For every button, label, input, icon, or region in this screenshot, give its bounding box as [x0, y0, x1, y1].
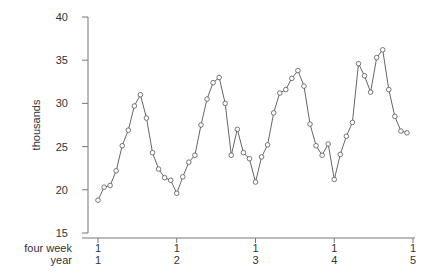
data-point-marker — [356, 61, 361, 66]
data-point-marker — [362, 73, 367, 78]
y-tick-label: 35 — [56, 54, 68, 66]
data-point-marker — [138, 92, 143, 97]
data-point-marker — [350, 120, 355, 125]
data-point-marker — [211, 80, 216, 85]
data-point-marker — [96, 198, 101, 203]
data-point-marker — [217, 75, 222, 80]
data-point-marker — [393, 114, 398, 119]
data-point-marker — [253, 180, 258, 185]
data-point-marker — [399, 129, 404, 134]
data-point-marker — [271, 111, 276, 116]
x-tick-label: 1 — [410, 242, 416, 254]
data-point-marker — [368, 90, 373, 95]
x-tick-label: 1 — [95, 254, 101, 266]
y-tick-label: 20 — [56, 184, 68, 196]
data-point-marker — [265, 143, 270, 148]
data-point-marker — [405, 130, 410, 135]
x-row-label-year: year — [51, 254, 73, 266]
data-point-marker — [290, 76, 295, 81]
data-point-marker — [132, 104, 137, 109]
data-point-marker — [193, 153, 198, 158]
data-point-marker — [338, 152, 343, 157]
data-point-marker — [120, 143, 125, 148]
y-tick-label: 40 — [56, 11, 68, 23]
data-point-marker — [235, 127, 240, 132]
x-axis: 1112131415 — [82, 238, 416, 266]
y-axis: 152025303540 — [56, 11, 88, 239]
data-point-marker — [162, 175, 167, 180]
data-point-marker — [229, 153, 234, 158]
data-point-marker — [108, 183, 113, 188]
data-point-marker — [247, 156, 252, 161]
data-point-marker — [314, 143, 319, 148]
data-point-marker — [296, 68, 301, 73]
x-tick-label: 2 — [174, 254, 180, 266]
data-point-marker — [205, 97, 210, 102]
data-point-marker — [181, 175, 186, 180]
y-axis-title: thousands — [30, 99, 42, 150]
data-point-marker — [386, 87, 391, 92]
data-point-marker — [320, 153, 325, 158]
data-point-marker — [174, 191, 179, 196]
data-point-marker — [326, 142, 331, 147]
x-tick-label: 5 — [410, 254, 416, 266]
y-tick-label: 25 — [56, 141, 68, 153]
data-point-marker — [187, 160, 192, 165]
x-tick-label: 1 — [174, 242, 180, 254]
data-point-marker — [199, 123, 204, 128]
line-chart: 152025303540 1112131415 thousands four w… — [0, 0, 434, 280]
x-row-label-four-week: four week — [24, 242, 72, 254]
data-series — [96, 48, 410, 203]
data-point-marker — [102, 185, 107, 190]
data-point-marker — [168, 178, 173, 183]
x-tick-label: 1 — [95, 242, 101, 254]
series-line — [98, 50, 407, 200]
data-point-marker — [344, 134, 349, 139]
data-point-marker — [223, 101, 228, 106]
data-point-marker — [332, 177, 337, 182]
data-point-marker — [302, 84, 307, 89]
data-point-marker — [156, 167, 161, 172]
data-point-marker — [308, 122, 313, 127]
y-tick-label: 15 — [56, 227, 68, 239]
data-point-marker — [150, 150, 155, 155]
data-point-marker — [374, 55, 379, 60]
data-point-marker — [241, 150, 246, 155]
data-point-marker — [283, 87, 288, 92]
data-point-marker — [380, 48, 385, 53]
data-point-marker — [259, 155, 264, 160]
data-point-marker — [277, 91, 282, 96]
x-tick-label: 1 — [331, 242, 337, 254]
y-tick-label: 30 — [56, 97, 68, 109]
x-tick-label: 3 — [252, 254, 258, 266]
data-point-marker — [126, 128, 131, 133]
data-point-marker — [114, 168, 119, 173]
data-point-marker — [144, 116, 149, 121]
x-tick-label: 4 — [331, 254, 337, 266]
x-tick-label: 1 — [252, 242, 258, 254]
